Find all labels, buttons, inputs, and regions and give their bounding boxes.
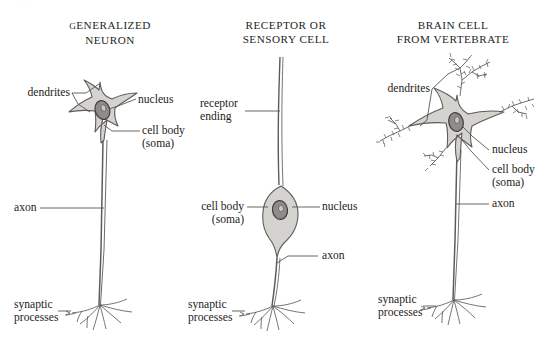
label-cell-body-col2: cell body (soma) — [180, 200, 244, 226]
label-cell-body-line1: cell body — [180, 200, 244, 213]
axon-shaft — [453, 150, 457, 300]
label-cell-body-col3: cell body (soma) — [492, 163, 535, 189]
nucleolus-shape — [455, 117, 460, 124]
heading-line-1: RECEPTOR OR — [213, 19, 359, 33]
leader-cell-body-3 — [462, 140, 489, 170]
label-nucleus-col3: nucleus — [492, 143, 527, 156]
column-heading-generalized-neuron: GENERALIZED NEURON — [35, 19, 185, 47]
receptor-sensory-cell-illustration — [239, 57, 305, 331]
nucleus-shape — [93, 99, 113, 122]
spiny-dendrites-right — [500, 97, 534, 119]
label-receptor-ending-col2: receptor ending — [200, 97, 238, 123]
heading-line-2: FROM VERTEBRATE — [373, 33, 533, 47]
label-synaptic-line2: processes — [378, 306, 422, 319]
label-cell-body-line2: (soma) — [180, 213, 244, 226]
leader-cell-body-1 — [104, 125, 140, 131]
label-nucleus-col1: nucleus — [138, 93, 173, 106]
label-synaptic-processes-col2: synaptic processes — [188, 298, 232, 324]
receptor-ending-shaft — [278, 57, 280, 185]
nucleolus-shape — [279, 205, 284, 212]
neuron-types-figure: . . . . . . GENERALIZED NEURON RECEPTOR … — [0, 0, 555, 344]
label-cell-body-line1: cell body — [492, 163, 535, 176]
label-axon-col3: axon — [492, 197, 515, 210]
axon-shaft — [272, 258, 277, 306]
axon-shaft-edge — [101, 140, 108, 305]
label-synaptic-line1: synaptic — [378, 293, 422, 306]
leader-dendrites-1b — [72, 93, 90, 112]
label-synaptic-processes-col3: synaptic processes — [378, 293, 422, 319]
nucleus-shape — [271, 200, 288, 221]
leader-axon-2 — [277, 256, 318, 263]
label-synaptic-line2: processes — [14, 311, 58, 324]
spiny-dendrites-left — [376, 116, 412, 147]
heading-line-1: BRAIN CELL — [373, 19, 533, 33]
label-synaptic-line2: processes — [188, 311, 232, 324]
spiny-dendrites-lower-left — [423, 148, 446, 171]
label-receptor-line1: receptor — [200, 97, 238, 110]
heading-line-2: NEURON — [35, 34, 185, 48]
figure-top-caption: . . . . . . — [14, 0, 374, 7]
label-nucleus-col2: nucleus — [322, 200, 357, 213]
leader-nucleus-1 — [109, 99, 136, 109]
leader-dendrites-1a — [72, 84, 99, 93]
soma-shape — [263, 186, 298, 258]
label-dendrites-col1: dendrites — [0, 86, 70, 99]
leader-dendrites-3a — [432, 68, 460, 89]
spiny-dendrites — [449, 53, 490, 96]
soma-shape — [409, 88, 504, 162]
heading-line-2: SENSORY CELL — [213, 33, 359, 47]
label-cell-body-line2: (soma) — [492, 176, 535, 189]
label-axon-col1: axon — [14, 201, 37, 214]
label-synaptic-line1: synaptic — [188, 298, 232, 311]
receptor-ending-edge — [282, 57, 283, 186]
leader-nucleus-3 — [463, 127, 489, 150]
synaptic-terminals — [239, 300, 305, 331]
nucleus-shape — [447, 111, 466, 133]
label-synaptic-processes-col1: synaptic processes — [14, 298, 58, 324]
generalized-neuron-illustration — [65, 80, 137, 330]
synaptic-terminals — [65, 299, 132, 330]
label-cell-body-col1: cell body (soma) — [142, 124, 185, 150]
axon-shaft-edge — [274, 258, 280, 306]
nucleolus-shape — [100, 104, 107, 112]
label-cell-body-line1: cell body — [142, 124, 185, 137]
axon-shaft-edge — [455, 150, 462, 300]
soma-shape — [69, 80, 137, 143]
label-cell-body-line2: (soma) — [142, 137, 185, 150]
synaptic-terminals — [420, 294, 486, 325]
label-dendrites-col3: dendrites — [360, 82, 430, 95]
label-axon-col2: axon — [322, 249, 345, 262]
heading-line-1-rest: ENERALIZED — [76, 19, 151, 31]
column-heading-receptor-sensory-cell: RECEPTOR OR SENSORY CELL — [213, 19, 359, 46]
column-heading-brain-cell-vertebrate: BRAIN CELL FROM VERTEBRATE — [373, 19, 533, 46]
heading-line-1: GENERALIZED — [35, 19, 185, 34]
label-receptor-line2: ending — [200, 110, 238, 123]
axon-shaft — [99, 140, 103, 305]
neuron-illustrations — [0, 0, 555, 344]
label-synaptic-line1: synaptic — [14, 298, 58, 311]
leader-lines — [40, 68, 489, 311]
